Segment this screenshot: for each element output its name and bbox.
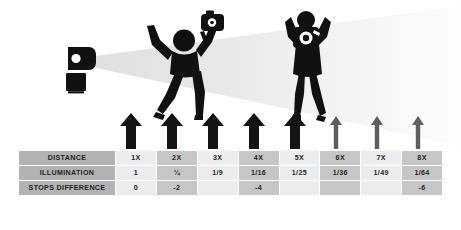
cell-illumination-3: 1/9 — [198, 166, 238, 180]
up-arrow-icon — [202, 113, 224, 149]
cell-stops-8: -6 — [402, 181, 442, 195]
cell-stops-6 — [320, 181, 360, 195]
cell-distance-7: 7X — [361, 151, 401, 165]
up-arrow-icon — [284, 113, 306, 149]
up-arrow-icon — [243, 113, 265, 149]
flash-strobe-icon — [66, 47, 96, 93]
row-label-distance: DISTANCE — [19, 151, 115, 165]
row-label-illumination: ILLUMINATION — [19, 166, 115, 180]
table-row: DISTANCE 1X 2X 3X 4X 5X 6X 7X 8X — [19, 151, 442, 165]
cell-illumination-8: 1/64 — [402, 166, 442, 180]
cell-illumination-7: 1/49 — [361, 166, 401, 180]
row-label-stops-difference: STOPS DIFFERENCE — [19, 181, 115, 195]
cell-distance-4: 4X — [239, 151, 279, 165]
cell-stops-3 — [198, 181, 238, 195]
cell-distance-5: 5X — [280, 151, 320, 165]
cell-stops-7 — [361, 181, 401, 195]
cell-illumination-5: 1/25 — [280, 166, 320, 180]
table-row: STOPS DIFFERENCE 0 -2 -4 -6 — [19, 181, 442, 195]
up-arrow-icon — [120, 113, 142, 149]
cell-distance-6: 6X — [320, 151, 360, 165]
table-row: ILLUMINATION 1 ¼ 1/9 1/16 1/25 1/36 1/49… — [19, 166, 442, 180]
cell-stops-5 — [280, 181, 320, 195]
up-arrow-icon — [161, 113, 183, 149]
cell-illumination-6: 1/36 — [320, 166, 360, 180]
inverse-square-law-table: DISTANCE 1X 2X 3X 4X 5X 6X 7X 8X ILLUMIN… — [18, 150, 443, 196]
cell-distance-8: 8X — [402, 151, 442, 165]
up-arrow-icon — [412, 116, 424, 149]
cell-distance-1: 1X — [116, 151, 156, 165]
cell-stops-2: -2 — [157, 181, 197, 195]
cell-stops-1: 0 — [116, 181, 156, 195]
up-arrow-icon — [330, 116, 342, 149]
cell-distance-2: 2X — [157, 151, 197, 165]
up-arrow-icon — [371, 116, 383, 149]
inverse-square-law-diagram: DISTANCE 1X 2X 3X 4X 5X 6X 7X 8X ILLUMIN… — [0, 0, 461, 230]
cell-distance-3: 3X — [198, 151, 238, 165]
cell-illumination-1: 1 — [116, 166, 156, 180]
cell-illumination-4: 1/16 — [239, 166, 279, 180]
cell-stops-4: -4 — [239, 181, 279, 195]
arrow-row — [112, 112, 443, 150]
cell-illumination-2: ¼ — [157, 166, 197, 180]
